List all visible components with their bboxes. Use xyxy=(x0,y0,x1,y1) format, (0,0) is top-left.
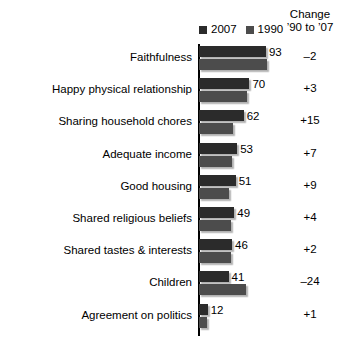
bar-2007 xyxy=(199,239,232,250)
category-label: Shared tastes & interests xyxy=(6,244,192,256)
bar-2007 xyxy=(199,304,208,315)
bar-group xyxy=(199,207,234,233)
change-value: +3 xyxy=(272,82,348,94)
bar-value-label: 12 xyxy=(211,304,224,316)
bar-row: Shared religious beliefs49+4 xyxy=(0,205,356,237)
bar-1990 xyxy=(199,156,232,167)
legend-label-2007: 2007 xyxy=(211,24,237,36)
category-label: Sharing household chores xyxy=(6,115,192,127)
legend-swatch-2007 xyxy=(199,26,207,34)
bar-2007 xyxy=(199,78,249,89)
bar-1990 xyxy=(199,252,231,263)
change-value: –24 xyxy=(272,275,348,287)
bar-1990 xyxy=(199,123,233,134)
category-label: Happy physical relationship xyxy=(6,83,192,95)
change-value: +2 xyxy=(272,243,348,255)
change-value: +1 xyxy=(272,308,348,320)
chart-legend: 2007 1990 xyxy=(199,24,283,36)
bar-value-label: 53 xyxy=(240,143,253,155)
bar-1990 xyxy=(199,91,247,102)
bar-2007 xyxy=(199,207,234,218)
bar-2007 xyxy=(199,271,229,282)
bar-row: Happy physical relationship70+3 xyxy=(0,76,356,108)
bar-row: Adequate income53+7 xyxy=(0,141,356,173)
bar-row: Children41–24 xyxy=(0,269,356,301)
bar-value-label: 62 xyxy=(247,110,260,122)
bar-value-label: 51 xyxy=(239,175,252,187)
bar-1990 xyxy=(199,284,246,295)
bar-group xyxy=(199,239,232,265)
bar-2007 xyxy=(199,143,237,154)
bar-group xyxy=(199,78,249,104)
bar-group xyxy=(199,110,244,136)
bar-1990 xyxy=(199,188,229,199)
legend-swatch-1990 xyxy=(246,26,254,34)
change-value: –2 xyxy=(272,50,348,62)
bar-2007 xyxy=(199,175,236,186)
change-header-line1: Change xyxy=(272,8,348,21)
change-value: +7 xyxy=(272,147,348,159)
bar-row: Good housing51+9 xyxy=(0,173,356,205)
bar-1990 xyxy=(199,317,207,328)
bar-value-label: 49 xyxy=(237,207,250,219)
category-label: Faithfulness xyxy=(6,51,192,63)
bar-row: Shared tastes & interests46+2 xyxy=(0,237,356,269)
category-label: Shared religious beliefs xyxy=(6,212,192,224)
bar-1990 xyxy=(199,59,267,70)
bar-value-label: 46 xyxy=(235,239,248,251)
change-value: +4 xyxy=(272,211,348,223)
bar-value-label: 41 xyxy=(232,271,245,283)
bar-row: Agreement on politics12+1 xyxy=(0,302,356,334)
bar-2007 xyxy=(199,110,244,121)
bar-1990 xyxy=(199,220,231,231)
bar-row: Faithfulness93–2 xyxy=(0,44,356,76)
bar-row: Sharing household chores62+15 xyxy=(0,108,356,140)
bar-group xyxy=(199,304,208,330)
plot-area: Faithfulness93–2Happy physical relations… xyxy=(0,44,356,344)
bar-group xyxy=(199,143,237,169)
legend-entry-2007: 2007 xyxy=(199,24,237,36)
bar-chart: 2007 1990 Change ’90 to ’07 Faithfulness… xyxy=(0,0,356,353)
bar-value-label: 70 xyxy=(252,78,265,90)
category-label: Good housing xyxy=(6,180,192,192)
change-value: +15 xyxy=(272,114,348,126)
change-column-header: Change ’90 to ’07 xyxy=(272,8,348,34)
bar-group xyxy=(199,175,236,201)
category-label: Children xyxy=(6,276,192,288)
bar-group xyxy=(199,46,267,72)
change-header-line2: ’90 to ’07 xyxy=(272,21,348,34)
change-value: +9 xyxy=(272,179,348,191)
bar-2007 xyxy=(199,46,266,57)
bar-rows: Faithfulness93–2Happy physical relations… xyxy=(0,44,356,334)
category-label: Agreement on politics xyxy=(6,309,192,321)
category-label: Adequate income xyxy=(6,148,192,160)
